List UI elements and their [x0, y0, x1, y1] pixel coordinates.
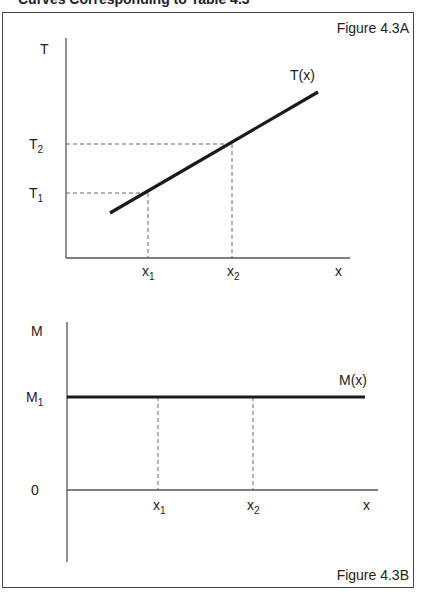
- x2-label-a: x2: [227, 263, 240, 282]
- x1-label-a: x1: [142, 263, 155, 282]
- x-axis-label-b: x: [363, 497, 370, 513]
- x2-label-b: x2: [247, 497, 260, 516]
- x1-label-b: x1: [153, 497, 166, 516]
- x-axis-label-a: x: [335, 263, 342, 279]
- figure-a-caption: Figure 4.3A: [337, 20, 410, 36]
- m-axis-label: M: [31, 323, 43, 339]
- diagram-canvas: Figure 4.3A T T(x) T1 T2 x1 x2 x M M(x) …: [0, 0, 422, 595]
- t-axis-label: T: [40, 41, 49, 57]
- m-of-x-label: M(x): [339, 372, 367, 388]
- t-of-x-curve: [110, 92, 318, 213]
- figure-4-3b: M M(x) M1 0 x1 x2 x Figure 4.3B: [26, 322, 409, 583]
- origin-label: 0: [31, 482, 39, 498]
- t2-label: T2: [29, 136, 44, 155]
- t-of-x-label: T(x): [290, 67, 315, 83]
- t1-label: T1: [29, 185, 44, 204]
- m1-label: M1: [26, 389, 44, 408]
- figure-b-caption: Figure 4.3B: [337, 567, 409, 583]
- figure-4-3a: Figure 4.3A T T(x) T1 T2 x1 x2 x: [29, 20, 410, 282]
